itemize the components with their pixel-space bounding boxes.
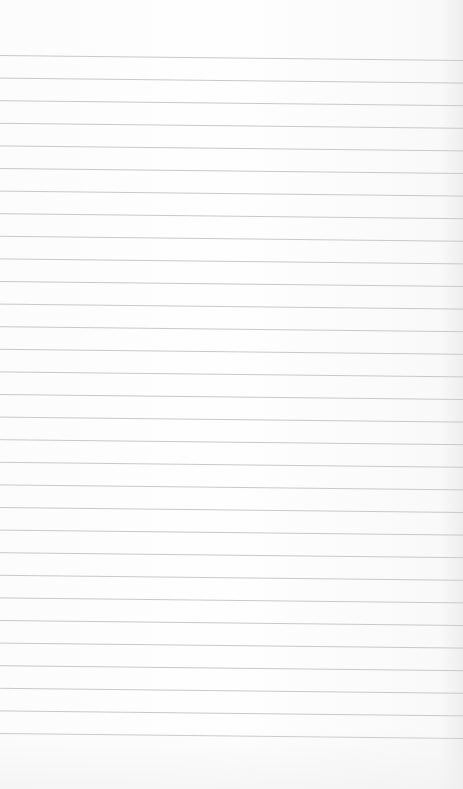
ruled-line [0, 123, 463, 128]
ruled-line [0, 711, 463, 716]
ruled-line [0, 417, 463, 422]
ruled-line [0, 349, 463, 354]
ruled-line [0, 643, 463, 648]
ruled-line [0, 440, 463, 445]
ruled-line [0, 169, 463, 174]
ruled-line [0, 666, 463, 671]
ruled-line [0, 553, 463, 558]
ruled-line [0, 214, 463, 219]
ruled-line [0, 575, 463, 580]
ruled-line [0, 598, 463, 603]
ruled-line [0, 485, 463, 490]
ruled-line [0, 304, 463, 309]
ruled-line [0, 688, 463, 693]
ruled-line [0, 372, 463, 377]
ruled-line [0, 621, 463, 626]
ruled-line [0, 508, 463, 513]
ruled-line [0, 236, 463, 241]
ruled-lines [0, 0, 463, 789]
ruled-line [0, 56, 463, 61]
ruled-line [0, 395, 463, 400]
ruled-line [0, 259, 463, 264]
ruled-line [0, 530, 463, 535]
ruled-line [0, 734, 463, 739]
ruled-line [0, 462, 463, 467]
lined-paper-sheet [0, 0, 463, 789]
ruled-line [0, 282, 463, 287]
ruled-line [0, 78, 463, 83]
ruled-line [0, 101, 463, 106]
ruled-line [0, 146, 463, 151]
ruled-line [0, 327, 463, 332]
ruled-line [0, 191, 463, 196]
